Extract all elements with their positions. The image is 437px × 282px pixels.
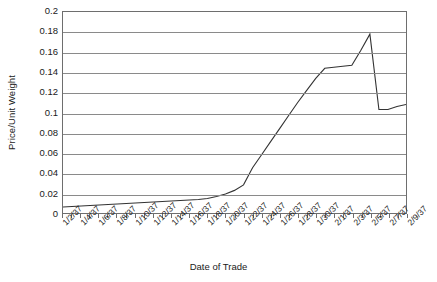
x-tick-label: 1/8/37 xyxy=(115,204,138,227)
x-axis-title: Date of Trade xyxy=(0,261,437,272)
x-tick-label: 1/2/37 xyxy=(61,204,84,227)
line-chart: Price/Unit Weight 0.20.180.160.140.120.1… xyxy=(0,0,437,282)
x-axis-tick-labels: 1/2/371/4/371/6/371/8/371/10/371/12/371/… xyxy=(0,0,437,282)
x-tick-label: 2/3/37 xyxy=(352,204,375,227)
